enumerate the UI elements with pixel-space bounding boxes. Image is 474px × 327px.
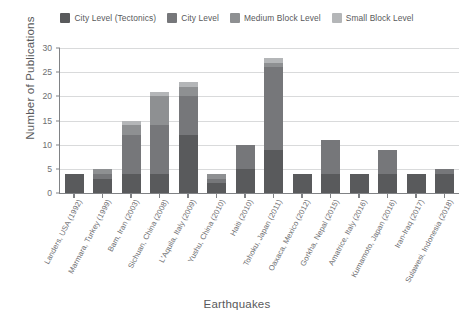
y-axis: 051015202530: [0, 48, 59, 194]
legend-label: City Level: [181, 13, 219, 23]
y-tick-label: 10: [42, 140, 52, 150]
legend-item-0[interactable]: City Level (Tectonics): [60, 13, 156, 23]
y-tick-label: 0: [47, 188, 52, 198]
y-tick-label: 30: [42, 43, 52, 53]
legend-swatch-icon: [332, 13, 342, 23]
x-axis-labels: Landers, USA (1992)Marmara, Turkey (1999…: [59, 198, 458, 293]
bar-segment: [179, 87, 198, 97]
legend-swatch-icon: [60, 13, 70, 23]
chart-figure: City Level (Tectonics)City LevelMedium B…: [0, 0, 474, 327]
legend-item-2[interactable]: Medium Block Level: [230, 13, 321, 23]
x-tick-label-text: Iran-Iraq (2017): [393, 198, 426, 250]
legend-item-3[interactable]: Small Block Level: [332, 13, 414, 23]
y-tick-label: 25: [42, 67, 52, 77]
x-tick-label-text: Haiti (2010): [229, 198, 256, 237]
y-tick-label: 15: [42, 116, 52, 126]
chart-legend: City Level (Tectonics)City LevelMedium B…: [0, 13, 474, 23]
legend-item-1[interactable]: City Level: [167, 13, 219, 23]
bar-segment: [264, 67, 283, 149]
legend-swatch-icon: [230, 13, 240, 23]
bar-segment: [150, 96, 169, 125]
x-axis-title: Earthquakes: [0, 298, 474, 310]
bar-segment: [179, 96, 198, 135]
y-tick-label: 5: [47, 164, 52, 174]
y-tick-label: 20: [42, 91, 52, 101]
legend-label: Small Block Level: [346, 13, 414, 23]
legend-label: City Level (Tectonics): [74, 13, 156, 23]
legend-label: Medium Block Level: [244, 13, 321, 23]
legend-swatch-icon: [167, 13, 177, 23]
